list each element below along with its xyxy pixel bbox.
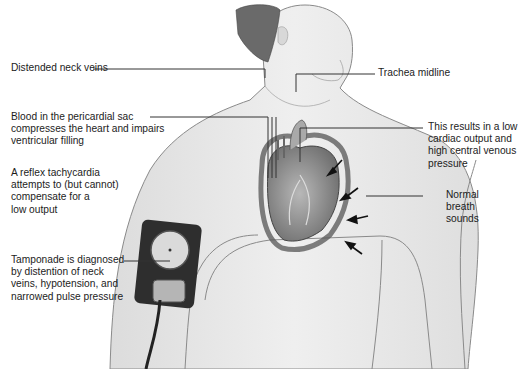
label-pericardial: Blood in the pericardial sac compresses … [11, 111, 164, 148]
label-tachycardia: A reflex tachycardia attempts to (but ca… [11, 167, 119, 216]
label-neck-veins: Distended neck veins [11, 62, 108, 74]
label-diagnosis: Tamponade is diagnosed by distention of … [11, 254, 124, 303]
label-trachea: Trachea midline [378, 67, 450, 79]
label-breath-sounds: Normal breath sounds [446, 189, 479, 226]
label-low-output: This results in a low cardiac output and… [428, 121, 517, 170]
